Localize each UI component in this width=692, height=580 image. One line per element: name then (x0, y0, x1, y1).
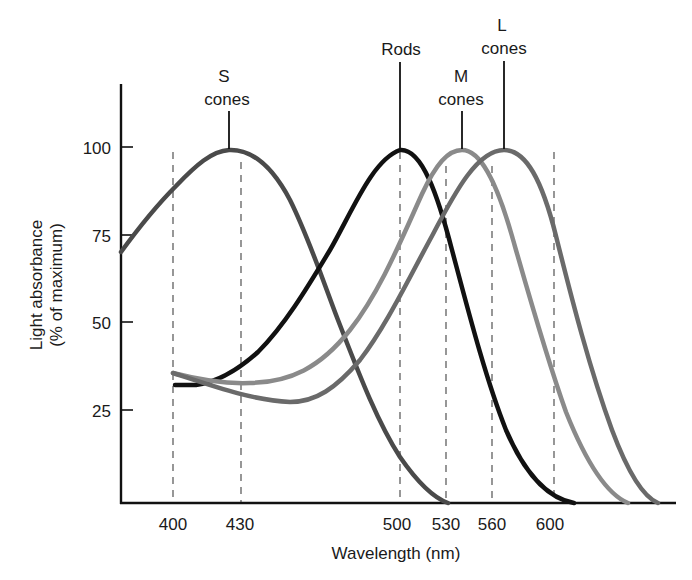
l-cones-label-line1: L (497, 16, 506, 35)
y-tick-label: 50 (92, 314, 111, 333)
s-cones-curve (121, 150, 448, 503)
axes (120, 84, 676, 504)
reference-lines (173, 152, 554, 503)
x-tick-label: 430 (226, 515, 254, 534)
x-tick-label: 500 (383, 515, 411, 534)
curves (121, 150, 658, 503)
absorbance-chart: 100 75 50 25 400 430 500 530 560 600 Wav… (0, 0, 692, 580)
s-cones-label-line1: S (218, 67, 229, 86)
y-axis-title-line2: (% of maximum) (47, 223, 66, 347)
x-tick-label: 560 (478, 515, 506, 534)
rods-curve (175, 150, 574, 503)
l-cones-label-line2: cones (481, 39, 526, 58)
y-axis-title: Light absorbance (% of maximum) (27, 220, 66, 350)
y-tick-label: 100 (83, 139, 111, 158)
y-tick-label: 25 (92, 402, 111, 421)
y-axis-title-line1: Light absorbance (27, 220, 46, 350)
x-tick-label: 400 (159, 515, 187, 534)
s-cones-label-line2: cones (204, 90, 249, 109)
y-tick-labels: 100 75 50 25 (83, 139, 111, 421)
m-cones-label-line2: cones (438, 90, 483, 109)
y-tick-label: 75 (92, 227, 111, 246)
x-tick-label: 530 (432, 515, 460, 534)
rods-label: Rods (381, 40, 421, 59)
x-tick-labels: 400 430 500 530 560 600 (159, 515, 564, 534)
x-axis-title: Wavelength (nm) (332, 544, 461, 563)
m-cones-label-line1: M (454, 67, 468, 86)
peak-labels: S cones Rods M cones L cones (204, 16, 526, 109)
x-tick-label: 600 (536, 515, 564, 534)
